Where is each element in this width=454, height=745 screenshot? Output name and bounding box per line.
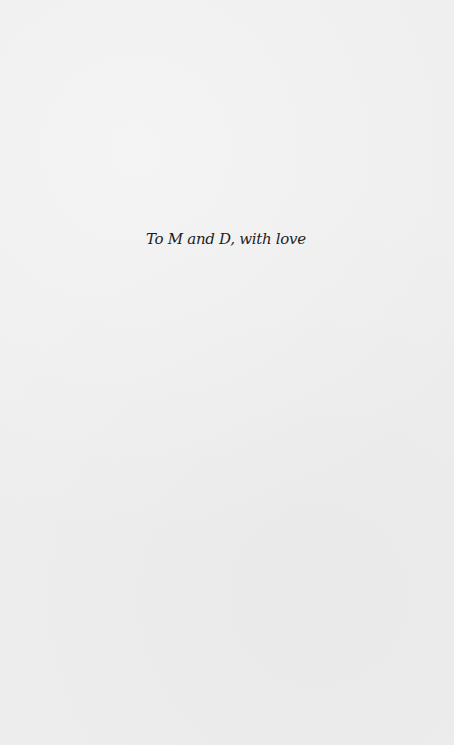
dedication-text: To M and D, with love: [146, 230, 306, 248]
book-page: To M and D, with love: [0, 0, 454, 745]
